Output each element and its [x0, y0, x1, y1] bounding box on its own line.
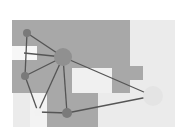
edge-n5-n6	[67, 96, 153, 113]
network-graph	[0, 0, 181, 133]
edge-n3-n4	[25, 76, 38, 112]
node-n1	[23, 29, 31, 37]
edge-hub-n4	[38, 57, 63, 112]
node-n5	[62, 108, 72, 118]
node-n3	[21, 72, 29, 80]
edge-n1-n3	[25, 33, 27, 76]
node-hub	[54, 48, 72, 66]
edge-hub-n6	[63, 57, 153, 96]
diagram-canvas	[0, 0, 181, 133]
node-n6	[143, 86, 163, 106]
node-n4	[34, 108, 42, 116]
